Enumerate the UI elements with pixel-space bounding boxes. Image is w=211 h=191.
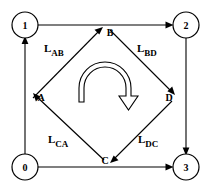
edge-c-to-a-line [36,96,104,160]
edge-a-to-b [33,27,103,98]
label-ldc: LDC [138,133,158,149]
point-a-label: A [37,92,45,103]
node-2-label: 2 [184,20,189,31]
node-3[interactable]: 3 [173,154,199,180]
edge-0-to-3-arrowhead [166,164,174,171]
label-lca-sub: CA [55,139,68,149]
node-0-label: 0 [23,162,28,173]
node-1[interactable]: 1 [12,12,38,38]
rotation-arrow-icon [79,62,138,110]
diagram-canvas: 1 2 0 3 A B C D LAB LBD [0,0,211,191]
edge-c-to-a [33,93,104,160]
label-lbd-base: L [137,42,144,54]
point-b-label: B [107,27,114,38]
label-lca: LCA [48,133,69,149]
edge-a-to-b-line [33,30,100,98]
edge-a-to-b-arrowhead [95,27,104,35]
label-lab-base: L [44,42,51,54]
node-2[interactable]: 2 [173,12,199,38]
edge-b-to-d-line [110,30,172,92]
point-d-label: D [165,92,172,103]
edge-0-to-1 [22,36,29,155]
label-lca-base: L [48,133,55,145]
edge-1-to-2-arrowhead [166,22,174,29]
node-1-label: 1 [23,20,28,31]
label-lbd: LBD [137,42,157,58]
rotation-arrow-path [79,62,138,110]
edge-2-to-3 [183,38,190,156]
edge-d-to-c-line [113,101,172,160]
label-lbd-sub: BD [144,48,157,58]
label-lab-sub: AB [51,48,64,58]
label-lab: LAB [44,42,64,58]
edge-b-to-d [110,30,175,95]
svg-text:LAB: LAB [44,42,64,58]
svg-text:LCA: LCA [48,133,69,149]
edge-d-to-c [110,101,172,163]
point-c-label: C [101,155,108,166]
label-ldc-sub: DC [145,139,158,149]
node-3-label: 3 [184,162,189,173]
label-ldc-base: L [138,133,145,145]
svg-text:LDC: LDC [138,133,158,149]
diagram-svg: 1 2 0 3 A B C D LAB LBD [0,0,211,191]
node-0[interactable]: 0 [12,154,38,180]
svg-text:LBD: LBD [137,42,157,58]
